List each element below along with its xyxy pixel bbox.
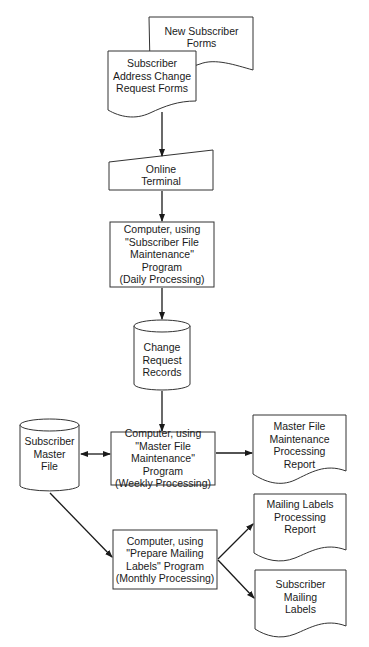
label-line: Labels [285,603,316,616]
weekly-process-label: Computer, using "Master File Maintenance… [111,430,215,487]
change-records-label: Change Request Records [134,340,190,380]
label-line: Subscriber [127,57,177,70]
master-file-label: Subscriber Master File [20,434,79,474]
label-line: (Monthly Processing) [116,572,215,585]
arrow-master-to-monthly [50,493,112,557]
label-line: (Weekly Processing) [115,477,211,490]
new-forms-label: New Subscriber Forms [150,22,253,52]
label-line: Processing [274,445,326,458]
label-line: Program [142,261,182,274]
label-line: Records [142,366,181,379]
label-line: Mailing [284,591,317,604]
label-line: Report [284,458,316,471]
label-line: Change [144,341,181,354]
arrow-monthly-to-mailing-labels [218,560,254,598]
label-line: Maintenance [269,433,329,446]
label-line: Maintenance" [130,248,194,261]
daily-process-label: Computer, using "Subscriber File Mainten… [110,222,214,287]
label-line: Master File [274,420,326,433]
label-line: Subscriber [275,578,325,591]
label-line: Address Change [113,70,191,83]
label-line: Subscriber [24,435,74,448]
label-line: Terminal [141,175,181,188]
label-line: "Prepare Mailing [126,547,203,560]
mailing-labels-label: Subscriber Mailing Labels [255,577,346,617]
label-line: Online [146,163,176,176]
labels-report-label: Mailing Labels Processing Report [254,497,346,537]
label-line: Processing [274,511,326,524]
label-line: "Master File [135,440,191,453]
label-line: (Daily Processing) [119,273,204,286]
label-line: Request [142,354,181,367]
label-line: Computer, using [124,223,200,236]
label-line: Computer, using [127,535,203,548]
label-line: "Subscriber File [125,236,199,249]
label-line: Maintenance" [131,452,195,465]
label-line: File [41,460,58,473]
label-line: Mailing Labels [266,498,333,511]
label-line: Program [143,465,183,478]
change-forms-label: Subscriber Address Change Request Forms [108,55,196,97]
label-line: Computer, using [125,427,201,440]
label-line: Request Forms [116,82,188,95]
label-line: Report [284,523,316,536]
label-line: New Subscriber [164,25,238,38]
maint-report-label: Master File Maintenance Processing Repor… [253,419,346,471]
label-line: Master [33,448,65,461]
label-line: Forms [187,37,217,50]
monthly-process-label: Computer, using "Prepare Mailing Labels"… [113,530,217,589]
arrow-monthly-to-labels-report [218,524,253,559]
label-line: Labels" Program [126,560,204,573]
terminal-label: Online Terminal [109,160,213,190]
